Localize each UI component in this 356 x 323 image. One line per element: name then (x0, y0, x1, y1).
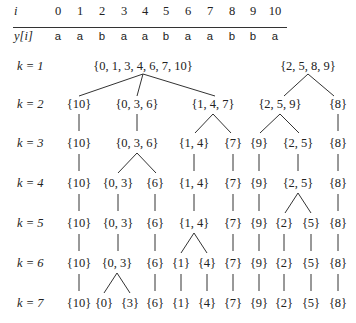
tree-node: {0, 3} (103, 176, 134, 190)
tree-node: {0, 3} (102, 256, 133, 270)
tree-node: {2} (275, 296, 293, 310)
tree-node: {0, 3, 6} (115, 136, 158, 150)
tree-node: {1, 4} (179, 136, 210, 150)
tree-node: {8} (329, 216, 347, 230)
tree-node: {2, 5, 9} (258, 97, 301, 111)
tree-node: {4} (198, 296, 216, 310)
tree-node: {10} (67, 176, 92, 190)
tree-node: {1, 4} (179, 176, 210, 190)
tree-node: {7} (224, 296, 242, 310)
tree-node: {8} (329, 176, 347, 190)
tree-node: {2, 5, 8, 9} (280, 59, 336, 73)
tree-node: {9} (250, 296, 268, 310)
tree-node: {0, 3, 6} (115, 97, 158, 111)
level-label-k1: k = 1 (17, 59, 43, 73)
tree-node: {2} (275, 216, 293, 230)
tree-node: {1} (172, 296, 190, 310)
tree-node: {2, 5} (283, 176, 314, 190)
tree-node: {10} (67, 256, 92, 270)
tree-node: {7} (224, 216, 242, 230)
tree-node: {9} (250, 176, 268, 190)
tree-edges (0, 0, 356, 323)
level-label-k7: k = 7 (17, 296, 43, 310)
tree-node: {10} (67, 216, 92, 230)
tree-node: {0, 3} (103, 216, 134, 230)
tree-node: {8} (329, 136, 347, 150)
tree-node: {6} (146, 176, 164, 190)
tree-node: {5} (302, 296, 320, 310)
tree-node: {6} (146, 296, 164, 310)
tree-node: {1} (172, 256, 190, 270)
tree-node: {4} (198, 256, 216, 270)
tree-node: {0, 1, 3, 4, 6, 7, 10} (93, 59, 193, 73)
tree-node: {0} (95, 296, 113, 310)
level-label-k4: k = 4 (17, 176, 43, 190)
tree-node: {8} (329, 97, 347, 111)
tree-node: {8} (329, 296, 347, 310)
tree-node: {10} (67, 97, 92, 111)
tree-node: {2, 5} (283, 136, 314, 150)
tree-node: {10} (67, 136, 92, 150)
tree-node: {1, 4} (179, 216, 210, 230)
tree-node: {7} (224, 176, 242, 190)
tree-node: {2} (275, 256, 293, 270)
tree-node: {7} (224, 256, 242, 270)
tree-node: {9} (250, 256, 268, 270)
tree-node: {5} (302, 256, 320, 270)
tree-node: {10} (67, 296, 92, 310)
tree-node: {5} (302, 216, 320, 230)
level-label-k3: k = 3 (17, 136, 43, 150)
level-label-k6: k = 6 (17, 256, 43, 270)
tree-node: {3} (121, 296, 139, 310)
tree-node: {8} (329, 256, 347, 270)
tree-node: {7} (224, 136, 242, 150)
tree-node: {6} (146, 256, 164, 270)
level-label-k2: k = 2 (17, 97, 43, 111)
tree-node: {6} (146, 216, 164, 230)
tree-node: {9} (250, 216, 268, 230)
tree-node: {9} (250, 136, 268, 150)
level-label-k5: k = 5 (17, 216, 43, 230)
tree-node: {1, 4, 7} (191, 97, 234, 111)
